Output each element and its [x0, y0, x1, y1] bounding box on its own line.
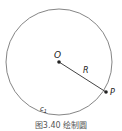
label-r: R — [83, 66, 89, 75]
point-p — [104, 90, 108, 94]
circle-diagram: O R P c1 图3.40 绘制圆 — [0, 0, 122, 131]
center-point-o — [57, 60, 61, 64]
label-p: P — [110, 88, 115, 97]
label-c1: c1 — [40, 105, 47, 114]
figure-caption: 图3.40 绘制圆 — [35, 120, 87, 130]
label-o: O — [54, 50, 61, 60]
